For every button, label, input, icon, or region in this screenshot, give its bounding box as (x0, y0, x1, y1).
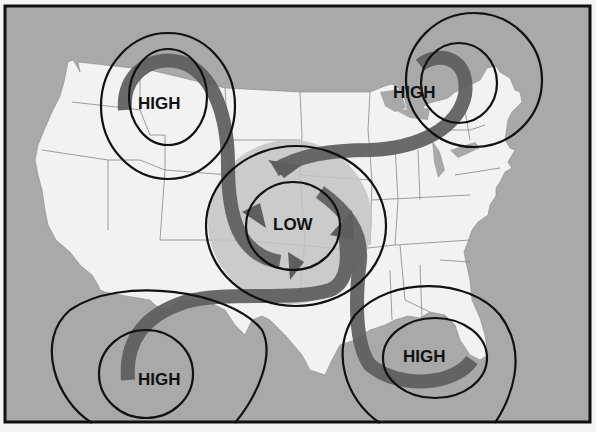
label-high-northwest: HIGH (138, 94, 181, 113)
label-high-southeast: HIGH (403, 347, 446, 366)
pressure-systems-map: HIGH HIGH LOW HIGH HIGH (0, 0, 596, 432)
label-high-northeast: HIGH (393, 83, 436, 102)
label-low-center: LOW (273, 215, 314, 234)
label-high-southwest: HIGH (138, 370, 181, 389)
